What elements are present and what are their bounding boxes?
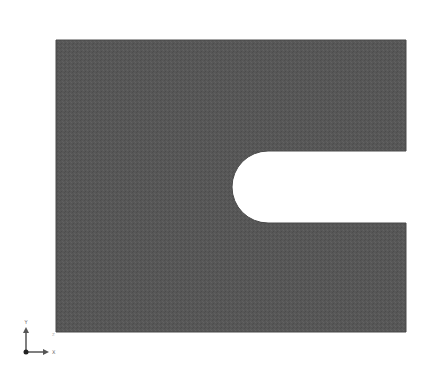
model-viewport[interactable]: Y X Z <box>0 0 438 375</box>
y-axis-label: Y <box>24 319 29 325</box>
z-axis-label: Z <box>52 332 55 337</box>
axis-triad: Y X Z <box>23 319 56 355</box>
x-axis-label: X <box>52 349 56 355</box>
origin-dot <box>24 350 29 355</box>
plate-part[interactable] <box>56 40 406 332</box>
